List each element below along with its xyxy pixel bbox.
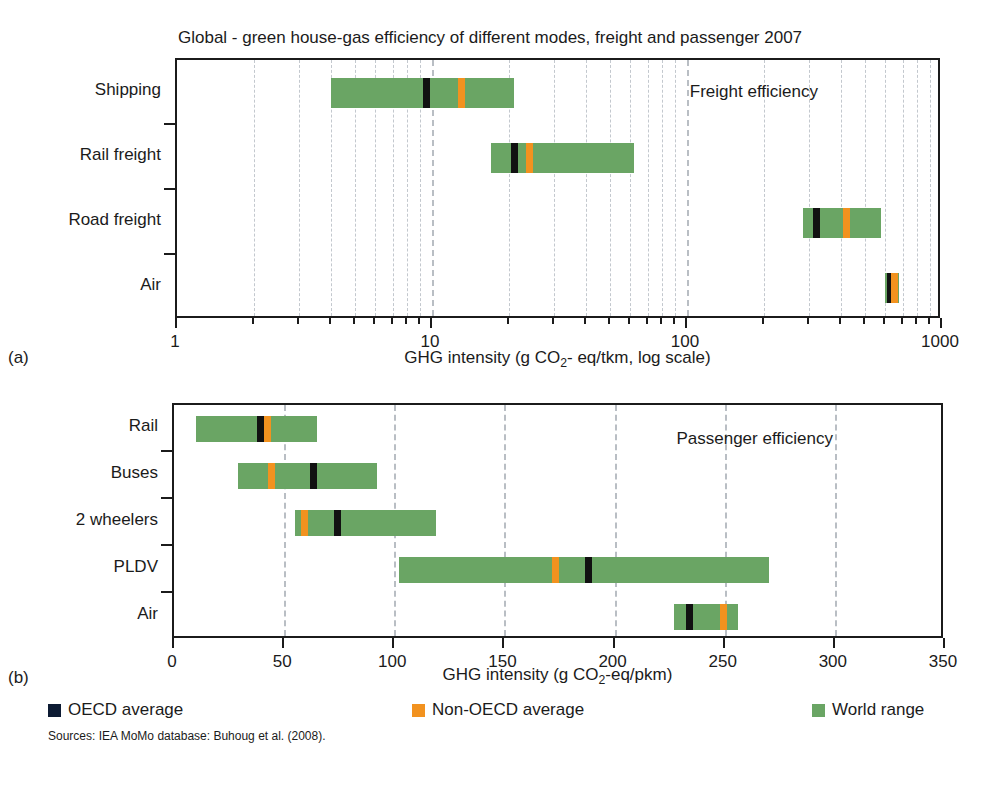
- y-axis-tick: [161, 544, 172, 546]
- passenger-x-axis-title-pre: GHG intensity (g CO: [443, 665, 599, 684]
- non-oecd-average-marker: [720, 604, 727, 630]
- x-axis-tick: [175, 318, 177, 328]
- passenger-annotation: Passenger efficiency: [676, 429, 833, 449]
- x-axis-tick: [839, 318, 841, 324]
- x-axis-tick: [673, 318, 675, 324]
- x-axis-tick: [282, 638, 284, 648]
- gridline: [675, 60, 676, 316]
- x-axis-tick: [628, 318, 630, 324]
- range-bar: [674, 604, 738, 630]
- y-axis-tick: [161, 497, 172, 499]
- non-oecd-average-marker: [526, 143, 533, 173]
- x-axis-tick: [418, 318, 420, 324]
- passenger-x-axis-title-post: -eq/pkm): [605, 665, 672, 684]
- x-axis-tick: [608, 318, 610, 324]
- legend-label-world-range: World range: [832, 700, 924, 720]
- x-axis-tick: [373, 318, 375, 324]
- y-axis-tick: [161, 591, 172, 593]
- gridline: [648, 60, 649, 316]
- passenger-chart-panel: Passenger efficiency: [172, 403, 943, 638]
- category-label-buses: Buses: [0, 463, 158, 483]
- gridline: [610, 60, 611, 316]
- non-oecd-average-marker: [891, 273, 898, 303]
- gridline: [554, 60, 555, 316]
- gridline: [917, 60, 918, 316]
- oecd-average-marker: [585, 557, 592, 583]
- x-axis-tick: [807, 318, 809, 324]
- gridline: [841, 60, 842, 316]
- gridline: [687, 60, 689, 316]
- non-oecd-average-marker: [843, 208, 850, 238]
- oecd-average-marker: [310, 463, 317, 489]
- x-axis-tick: [660, 318, 662, 324]
- non-oecd-average-marker: [552, 557, 559, 583]
- range-bar: [399, 557, 769, 583]
- non-oecd-average-marker: [458, 78, 465, 108]
- freight-x-axis-title-post: - eq/tkm, log scale): [567, 348, 711, 367]
- x-axis-tick: [685, 318, 687, 328]
- y-axis-tick: [164, 188, 175, 190]
- gridline: [615, 405, 617, 636]
- oecd-average-marker: [686, 604, 693, 630]
- legend-label-oecd: OECD average: [68, 700, 183, 720]
- x-axis-tick: [762, 318, 764, 324]
- x-axis-tick: [646, 318, 648, 324]
- x-axis-tick: [940, 318, 942, 328]
- gridline: [630, 60, 631, 316]
- passenger-x-axis-title: GHG intensity (g CO2-eq/pkm): [172, 665, 943, 687]
- subfigure-label-b: (b): [8, 668, 29, 688]
- subfigure-label-a: (a): [8, 348, 29, 368]
- gridline: [865, 60, 866, 316]
- gridline: [662, 60, 663, 316]
- legend-item-non-oecd: Non-OECD average: [412, 700, 584, 720]
- x-axis-tick: [329, 318, 331, 324]
- x-axis-tick: [552, 318, 554, 324]
- category-label-road-freight: Road freight: [0, 210, 161, 230]
- category-label-air: Air: [0, 604, 158, 624]
- x-axis-tick: [901, 318, 903, 324]
- source-note: Sources: IEA MoMo database: Buhoug et al…: [48, 729, 326, 743]
- x-axis-tick: [297, 318, 299, 324]
- oecd-average-marker: [334, 510, 341, 536]
- legend-item-oecd: OECD average: [48, 700, 183, 720]
- y-axis-tick: [164, 123, 175, 125]
- figure-ghg-efficiency: Global - green house-gas efficiency of d…: [0, 0, 998, 789]
- non-oecd-average-marker: [301, 510, 308, 536]
- x-axis-tick: [353, 318, 355, 324]
- x-axis-tick: [391, 318, 393, 324]
- y-axis-tick: [164, 253, 175, 255]
- y-axis-tick: [161, 450, 172, 452]
- gridline: [930, 60, 931, 316]
- x-axis-tick: [507, 318, 509, 324]
- x-axis-tick: [252, 318, 254, 324]
- category-label-rail: Rail: [0, 416, 158, 436]
- gridline: [835, 405, 837, 636]
- oecd-average-marker: [423, 78, 430, 108]
- x-axis-tick: [430, 318, 432, 328]
- non-oecd-average-marker: [268, 463, 275, 489]
- x-axis-tick: [723, 638, 725, 648]
- x-axis-tick: [392, 638, 394, 648]
- category-label-shipping: Shipping: [0, 80, 161, 100]
- gridline: [504, 405, 506, 636]
- x-axis-tick: [943, 638, 945, 648]
- non-oecd-average-marker: [264, 416, 271, 442]
- x-axis-tick: [584, 318, 586, 324]
- x-axis-tick: [613, 638, 615, 648]
- x-axis-tick: [928, 318, 930, 324]
- x-axis-tick: [863, 318, 865, 324]
- freight-chart-panel: Freight efficiency: [175, 58, 940, 318]
- oecd-average-marker: [813, 208, 820, 238]
- gridline: [903, 60, 904, 316]
- range-bar: [196, 416, 317, 442]
- legend-swatch-oecd: [48, 704, 61, 717]
- legend-swatch-non-oecd: [412, 704, 425, 717]
- x-axis-tick: [915, 318, 917, 324]
- page-title: Global - green house-gas efficiency of d…: [178, 28, 802, 48]
- gridline: [254, 60, 255, 316]
- category-label-2-wheelers: 2 wheelers: [0, 510, 158, 530]
- range-bar: [295, 510, 436, 536]
- freight-x-axis-title-pre: GHG intensity (g CO: [404, 348, 560, 367]
- category-label-pldv: PLDV: [0, 557, 158, 577]
- x-axis-tick: [502, 638, 504, 648]
